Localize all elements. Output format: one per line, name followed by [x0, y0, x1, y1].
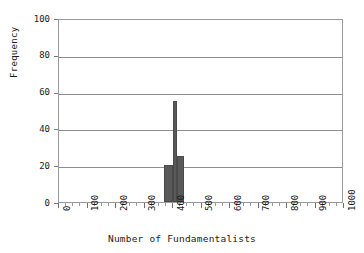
y-tick-label: 20	[39, 162, 50, 171]
x-tick-label: 0	[63, 206, 72, 211]
x-minor-tick-mark	[101, 203, 102, 206]
x-tick-label: 200	[120, 195, 129, 211]
x-major-tick-mark	[58, 203, 59, 208]
x-minor-tick-mark	[72, 203, 73, 206]
x-minor-tick-mark	[222, 203, 223, 206]
x-minor-tick-mark	[158, 203, 159, 206]
x-major-tick-mark	[258, 203, 259, 208]
x-minor-tick-mark	[307, 203, 308, 206]
x-tick-label: 100	[91, 195, 100, 211]
y-tick-label: 60	[39, 88, 50, 97]
x-minor-tick-mark	[272, 203, 273, 206]
x-axis-ticks: 01002003004005006007008009001000	[0, 203, 364, 253]
x-major-tick-mark	[144, 203, 145, 208]
x-major-tick-mark	[115, 203, 116, 208]
x-minor-tick-mark	[129, 203, 130, 206]
x-minor-tick-mark	[215, 203, 216, 206]
x-tick-label: 500	[205, 195, 214, 211]
x-tick-label: 400	[177, 195, 186, 211]
x-minor-tick-mark	[336, 203, 337, 206]
x-axis-title: Number of Fundamentalists	[0, 233, 364, 244]
x-major-tick-mark	[172, 203, 173, 208]
x-tick-label: 300	[148, 195, 157, 211]
y-tick-label: 80	[39, 51, 50, 60]
x-minor-tick-mark	[329, 203, 330, 206]
x-tick-label: 1000	[348, 189, 357, 211]
bars-layer	[59, 20, 342, 202]
x-major-tick-mark	[343, 203, 344, 208]
x-tick-label: 700	[262, 195, 271, 211]
x-minor-tick-mark	[243, 203, 244, 206]
x-tick-label: 800	[291, 195, 300, 211]
x-minor-tick-mark	[300, 203, 301, 206]
plot-area	[58, 19, 343, 203]
x-minor-tick-mark	[165, 203, 166, 206]
x-major-tick-mark	[315, 203, 316, 208]
x-major-tick-mark	[201, 203, 202, 208]
x-minor-tick-mark	[79, 203, 80, 206]
y-tick-label: 40	[39, 125, 50, 134]
y-tick-label: 100	[34, 15, 50, 24]
histogram-chart: Frequency 020406080100 01002003004005006…	[0, 0, 364, 253]
x-tick-label: 900	[319, 195, 328, 211]
x-minor-tick-mark	[193, 203, 194, 206]
x-major-tick-mark	[229, 203, 230, 208]
x-major-tick-mark	[87, 203, 88, 208]
x-minor-tick-mark	[279, 203, 280, 206]
x-minor-tick-mark	[108, 203, 109, 206]
x-minor-tick-mark	[186, 203, 187, 206]
x-minor-tick-mark	[250, 203, 251, 206]
x-tick-label: 600	[234, 195, 243, 211]
x-minor-tick-mark	[136, 203, 137, 206]
bar	[164, 165, 173, 202]
x-major-tick-mark	[286, 203, 287, 208]
